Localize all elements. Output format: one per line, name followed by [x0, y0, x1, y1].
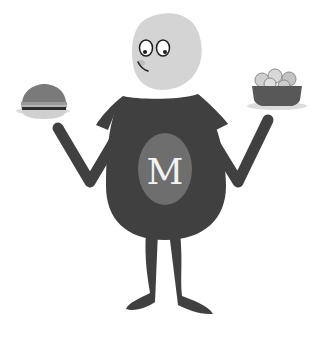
- burger-patty: [22, 107, 66, 110]
- left-leg: [126, 232, 158, 310]
- right-leg: [169, 232, 213, 314]
- salad-bowl: [247, 69, 307, 110]
- chest-letter: M: [147, 151, 184, 192]
- burger-bottom-bun: [22, 110, 66, 119]
- character-illustration: M: [0, 0, 325, 339]
- right-eye: [157, 40, 170, 56]
- illustration-canvas: M: [0, 0, 325, 339]
- burger-top-bun: [22, 84, 66, 104]
- burger: [16, 84, 70, 119]
- bowl: [252, 86, 302, 106]
